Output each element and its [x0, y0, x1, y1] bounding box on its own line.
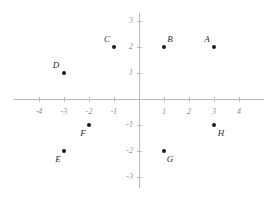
x-tick-mark — [164, 97, 165, 102]
y-tick-label: -3 — [117, 173, 133, 181]
point-label-h: H — [218, 129, 225, 138]
x-tick-mark — [39, 97, 40, 102]
data-point-b — [162, 45, 166, 49]
y-tick-mark — [137, 21, 142, 22]
x-tick-mark — [64, 97, 65, 102]
data-point-h — [212, 123, 216, 127]
data-point-g — [162, 149, 166, 153]
x-tick-mark — [214, 97, 215, 102]
point-label-c: C — [104, 35, 110, 44]
x-tick-label: -2 — [86, 108, 93, 116]
point-label-a: A — [204, 35, 210, 44]
x-tick-label: 4 — [237, 108, 241, 116]
y-tick-label: -1 — [117, 121, 133, 129]
point-label-b: B — [167, 35, 173, 44]
point-label-g: G — [167, 155, 174, 164]
x-tick-label: -4 — [36, 108, 43, 116]
data-point-a — [212, 45, 216, 49]
y-tick-mark — [137, 151, 142, 152]
point-label-e: E — [55, 155, 61, 164]
x-tick-label: 1 — [162, 108, 166, 116]
y-tick-label: 2 — [117, 43, 133, 51]
point-label-d: D — [53, 61, 60, 70]
x-tick-mark — [89, 97, 90, 102]
data-point-c — [112, 45, 116, 49]
x-tick-mark — [114, 97, 115, 102]
y-tick-label: 1 — [117, 69, 133, 77]
data-point-f — [87, 123, 91, 127]
data-point-e — [62, 149, 66, 153]
x-tick-label: -1 — [111, 108, 118, 116]
coordinate-plane-chart: -4-3-2-11234 321-1-2-3 ABCDEFGH — [0, 0, 276, 197]
y-tick-mark — [137, 47, 142, 48]
x-tick-mark — [239, 97, 240, 102]
point-label-f: F — [80, 129, 86, 138]
x-tick-label: -3 — [61, 108, 68, 116]
y-tick-mark — [137, 125, 142, 126]
x-tick-mark — [189, 97, 190, 102]
y-axis-line — [139, 13, 140, 188]
y-tick-label: -2 — [117, 147, 133, 155]
y-tick-label: 3 — [117, 17, 133, 25]
y-tick-mark — [137, 73, 142, 74]
y-tick-mark — [137, 177, 142, 178]
x-tick-label: 2 — [187, 108, 191, 116]
x-tick-label: 3 — [212, 108, 216, 116]
data-point-d — [62, 71, 66, 75]
